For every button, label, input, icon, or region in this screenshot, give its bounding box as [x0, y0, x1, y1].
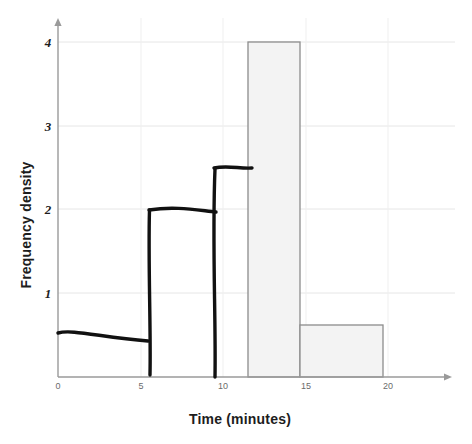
histogram-canvas: 0 5 10 15 20 1 2 3 4 Time (minutes) Freq… [0, 0, 472, 444]
y-axis-title: Frequency density [18, 161, 34, 288]
y-tick-1: 1 [45, 286, 52, 301]
x-tick-0: 0 [55, 381, 60, 391]
drawn-top-10-12 [214, 167, 252, 168]
bar-12-15 [248, 42, 300, 377]
x-tick-10: 10 [218, 381, 228, 391]
drawn-top-0-6 [58, 332, 148, 341]
y-tick-labels: 1 2 3 4 [44, 35, 52, 301]
y-axis-arrowhead [54, 18, 61, 26]
x-axis-arrowhead [444, 373, 452, 380]
drawn-riser-6 [149, 210, 150, 375]
y-tick-4: 4 [44, 35, 52, 50]
x-tick-labels: 0 5 10 15 20 [55, 381, 393, 391]
bar-15-20 [300, 325, 383, 377]
x-axis-title: Time (minutes) [189, 411, 291, 427]
y-tick-2: 2 [44, 202, 52, 217]
drawn-riser-10 [214, 169, 215, 377]
y-tick-3: 3 [44, 119, 52, 134]
x-tick-15: 15 [301, 381, 311, 391]
x-tick-20: 20 [383, 381, 393, 391]
x-tick-5: 5 [138, 381, 143, 391]
histogram-figure: 0 5 10 15 20 1 2 3 4 Time (minutes) Freq… [0, 0, 472, 444]
